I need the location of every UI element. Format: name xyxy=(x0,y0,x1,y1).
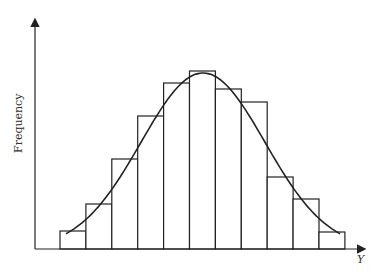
histogram-bar xyxy=(215,89,241,249)
x-axis-label: Y xyxy=(357,253,366,266)
histogram-bar xyxy=(86,204,112,249)
y-axis-label: Frequency xyxy=(12,93,25,153)
histogram-chart: Frequency Y xyxy=(0,0,383,277)
histogram-bar xyxy=(190,71,216,249)
histogram-bar xyxy=(138,116,164,249)
histogram-bar xyxy=(112,159,138,249)
histogram-bar xyxy=(267,177,293,249)
histogram-bars xyxy=(60,71,345,249)
histogram-bar xyxy=(319,232,345,249)
histogram-bar xyxy=(60,231,86,249)
histogram-bar xyxy=(293,199,319,249)
histogram-bar xyxy=(164,83,190,249)
